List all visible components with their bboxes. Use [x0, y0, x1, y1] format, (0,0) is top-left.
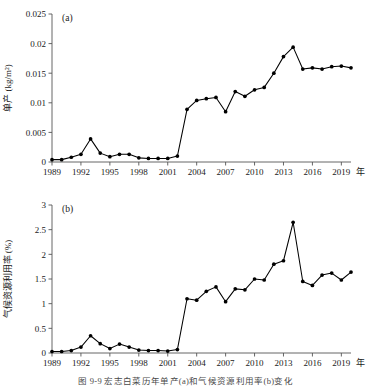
- data-point: [311, 66, 315, 70]
- series-line: [52, 47, 351, 159]
- data-point: [69, 155, 73, 159]
- y-tick-label: 1.5: [35, 274, 47, 284]
- data-point: [195, 99, 199, 103]
- data-point: [330, 65, 334, 69]
- data-point: [301, 67, 305, 71]
- y-axis-label: 单产 (kg/m²): [2, 64, 13, 111]
- data-point: [214, 96, 218, 100]
- x-tick-label: 1989: [43, 358, 62, 368]
- data-point: [147, 349, 151, 353]
- data-point: [224, 300, 228, 304]
- data-point: [349, 66, 353, 70]
- figure-caption: 图 9-9 宏志白菜历年单产(a)和气候资源利用率(b)变化: [0, 374, 371, 386]
- chart-panel-a: 00.0050.010.0150.020.0251989199219951998…: [2, 9, 365, 177]
- data-point: [108, 155, 112, 159]
- y-tick-label: 0: [42, 157, 47, 167]
- x-tick-label: 2007: [217, 167, 236, 177]
- data-point: [291, 45, 295, 49]
- data-point: [50, 158, 54, 162]
- x-axis-label: 年: [356, 166, 365, 177]
- data-point: [127, 345, 131, 349]
- y-tick-label: 2.5: [35, 225, 47, 235]
- data-point: [204, 289, 208, 293]
- x-axis-label: 年: [356, 357, 365, 368]
- x-tick-label: 2001: [159, 167, 177, 177]
- data-point: [195, 298, 199, 302]
- panel-label: (a): [62, 13, 73, 24]
- data-point: [233, 287, 237, 291]
- data-point: [176, 348, 180, 352]
- figure-container: 00.0050.010.0150.020.0251989199219951998…: [0, 0, 371, 392]
- series-line: [52, 222, 351, 351]
- x-tick-label: 2016: [303, 358, 322, 368]
- data-point: [243, 288, 247, 292]
- y-tick-label: 0.005: [26, 128, 47, 138]
- y-tick-label: 0.02: [30, 39, 46, 49]
- data-point: [262, 278, 266, 282]
- data-point: [176, 154, 180, 158]
- data-point: [282, 55, 286, 59]
- data-point: [243, 94, 247, 98]
- y-tick-label: 0.015: [26, 69, 47, 79]
- data-point: [320, 273, 324, 277]
- data-point: [79, 345, 83, 349]
- x-tick-label: 2013: [274, 167, 293, 177]
- y-tick-label: 2: [42, 250, 47, 260]
- data-point: [79, 152, 83, 156]
- x-tick-label: 2001: [159, 358, 177, 368]
- data-point: [224, 110, 228, 114]
- data-point: [185, 107, 189, 111]
- x-tick-label: 2016: [303, 167, 322, 177]
- x-tick-label: 1989: [43, 167, 62, 177]
- y-tick-label: 3: [42, 200, 47, 210]
- x-tick-label: 2019: [332, 167, 351, 177]
- data-point: [320, 67, 324, 71]
- data-point: [253, 277, 257, 281]
- x-tick-label: 2010: [246, 358, 265, 368]
- data-point: [156, 349, 160, 353]
- data-point: [185, 297, 189, 301]
- data-point: [233, 90, 237, 94]
- y-tick-label: 0.025: [26, 9, 47, 19]
- data-point: [330, 271, 334, 275]
- data-point: [60, 158, 64, 162]
- data-point: [253, 88, 257, 92]
- data-point: [118, 152, 122, 156]
- data-point: [262, 86, 266, 90]
- panel-label: (b): [62, 204, 73, 215]
- x-tick-label: 1992: [72, 167, 90, 177]
- data-point: [69, 349, 73, 353]
- data-point: [156, 157, 160, 161]
- chart-panel-b: 00.511.522.53198919921995199820012004200…: [2, 200, 365, 368]
- data-point: [311, 284, 315, 288]
- data-point: [291, 220, 295, 224]
- data-point: [98, 342, 102, 346]
- y-tick-label: 0.01: [30, 98, 46, 108]
- data-point: [340, 278, 344, 282]
- y-tick-label: 1: [42, 299, 47, 309]
- x-tick-label: 2019: [332, 358, 351, 368]
- data-point: [127, 152, 131, 156]
- data-point: [272, 71, 276, 75]
- data-point: [214, 285, 218, 289]
- x-tick-label: 1998: [130, 167, 149, 177]
- x-tick-label: 2013: [274, 358, 293, 368]
- x-tick-label: 2004: [188, 167, 207, 177]
- data-point: [60, 350, 64, 354]
- data-point: [301, 280, 305, 284]
- x-tick-label: 1992: [72, 358, 90, 368]
- data-point: [166, 157, 170, 161]
- data-point: [340, 64, 344, 68]
- y-tick-label: 0: [42, 348, 47, 358]
- data-point: [166, 349, 170, 353]
- x-tick-label: 1995: [101, 167, 120, 177]
- data-point: [147, 157, 151, 161]
- data-point: [98, 151, 102, 155]
- data-point: [137, 156, 141, 160]
- y-tick-label: 0.5: [35, 324, 47, 334]
- x-tick-label: 1995: [101, 358, 120, 368]
- x-tick-label: 2010: [246, 167, 265, 177]
- data-point: [89, 137, 93, 141]
- data-point: [108, 347, 112, 351]
- x-tick-label: 1998: [130, 358, 149, 368]
